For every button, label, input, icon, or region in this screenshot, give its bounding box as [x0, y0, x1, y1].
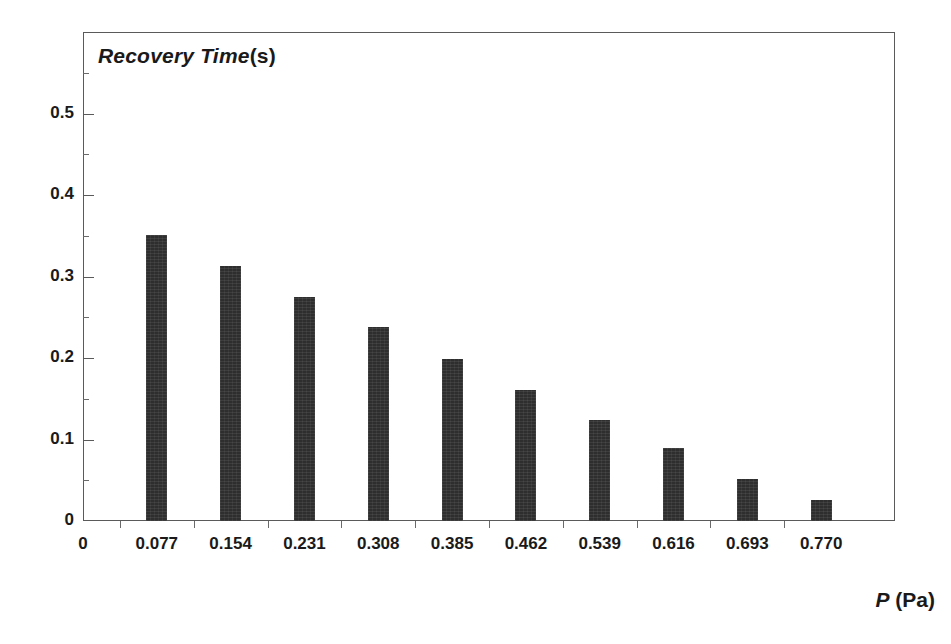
- bar: [146, 235, 167, 521]
- bar: [220, 266, 241, 521]
- y-axis-tick-major: [83, 358, 94, 359]
- x-axis-tick-minor: [268, 521, 269, 528]
- y-axis-tick-minor: [83, 399, 89, 400]
- x-axis-title-unit: (Pa): [895, 588, 935, 611]
- bar: [515, 390, 536, 521]
- bar: [368, 327, 389, 521]
- x-axis-tick-minor: [341, 521, 342, 528]
- y-axis-tick-major: [83, 277, 94, 278]
- x-axis-tick-label: 0.770: [766, 534, 876, 554]
- bar-series: [83, 32, 895, 521]
- y-axis-tick-minor: [83, 236, 89, 237]
- bar: [294, 297, 315, 521]
- x-axis-tick-minor: [120, 521, 121, 528]
- bar: [442, 359, 463, 521]
- y-axis-tick-minor: [83, 154, 89, 155]
- y-axis-tick-major: [83, 440, 94, 441]
- figure-canvas: Recovery Time(s) P (Pa) 00.10.20.30.40.5…: [0, 0, 951, 644]
- x-axis-tick-minor: [637, 521, 638, 528]
- y-axis-tick-minor: [83, 73, 89, 74]
- y-axis-tick-label: 0.3: [18, 266, 74, 286]
- y-axis-tick-label: 0: [18, 510, 74, 530]
- x-axis-tick-minor: [710, 521, 711, 528]
- bar: [811, 500, 832, 521]
- y-axis-tick-major: [83, 114, 94, 115]
- y-axis-tick-major: [83, 195, 94, 196]
- x-axis-tick-minor: [415, 521, 416, 528]
- x-axis-tick-minor: [784, 521, 785, 528]
- y-axis-tick-label: 0.5: [18, 103, 74, 123]
- y-axis-tick-label: 0.4: [18, 184, 74, 204]
- x-axis-title-symbol: P: [875, 588, 889, 611]
- x-axis-tick-minor: [194, 521, 195, 528]
- bar: [589, 420, 610, 521]
- bar: [663, 448, 684, 521]
- y-axis-tick-label: 0.1: [18, 429, 74, 449]
- x-axis-tick-minor: [489, 521, 490, 528]
- bar: [737, 479, 758, 521]
- x-axis-tick-minor: [563, 521, 564, 528]
- y-axis-tick-minor: [83, 480, 89, 481]
- x-axis-title: P (Pa): [0, 588, 935, 612]
- y-axis-tick-minor: [83, 317, 89, 318]
- y-axis-tick-label: 0.2: [18, 347, 74, 367]
